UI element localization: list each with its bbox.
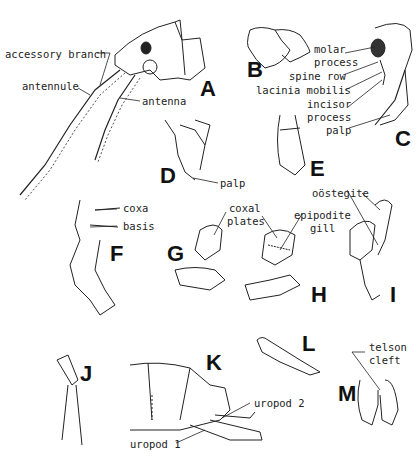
panel-letter-i: I	[390, 284, 396, 306]
label-incisor-process-1: incisor	[307, 98, 351, 110]
label-coxa: coxa	[123, 202, 148, 214]
panel-letter-k: K	[206, 352, 222, 374]
drawing-k-urosome	[130, 363, 262, 440]
label-telson-cleft-1: telson	[369, 341, 407, 353]
label-molar-process-1: molar	[314, 43, 346, 55]
label-uropod-2: uropod 2	[254, 397, 305, 409]
label-uropod-1: uropod 1	[130, 438, 181, 450]
label-incisor-process-2: process	[307, 111, 351, 123]
drawing-a-head	[20, 20, 205, 200]
label-antenna: antenna	[142, 95, 186, 107]
drawing-j-pleopod	[57, 355, 82, 445]
label-lacinia-mobilis: lacinia mobilis	[256, 84, 351, 96]
panel-letter-h: H	[311, 284, 327, 306]
amphipod-anatomy-figure: accessory branch antennule antenna molar…	[0, 0, 419, 457]
label-molar-process-2: process	[314, 56, 358, 68]
label-palp-d: palp	[220, 177, 245, 189]
label-antennule: antennule	[22, 80, 79, 92]
label-telson-cleft-2: cleft	[369, 354, 401, 366]
panel-letter-a: A	[200, 78, 216, 100]
label-palp-c: palp	[326, 124, 351, 136]
label-coxal-plates-1: coxal	[229, 202, 261, 214]
panel-letter-j: J	[80, 363, 92, 385]
label-epipodite-gill-1: epipodite	[294, 209, 351, 221]
drawing-h-gnathopod-2	[245, 230, 300, 300]
label-spine-row: spine row	[289, 70, 346, 82]
panel-letter-l: L	[302, 333, 315, 355]
label-coxal-plates-2: plates	[227, 215, 265, 227]
label-epipodite-gill-2: gill	[310, 222, 335, 234]
drawing-e-maxilliped	[278, 115, 306, 175]
panel-letter-f: F	[110, 243, 123, 265]
panel-letter-g: G	[167, 243, 184, 265]
panel-letter-e: E	[310, 158, 325, 180]
label-oostegite: oöstegite	[312, 187, 369, 199]
panel-letter-m: M	[338, 383, 356, 405]
label-basis: basis	[123, 220, 155, 232]
panel-letter-c: C	[395, 128, 411, 150]
panel-letter-b: B	[247, 59, 263, 81]
panel-letter-d: D	[160, 165, 176, 187]
drawing-i-pereopod	[350, 200, 392, 300]
label-accessory-branch: accessory branch	[5, 48, 106, 60]
